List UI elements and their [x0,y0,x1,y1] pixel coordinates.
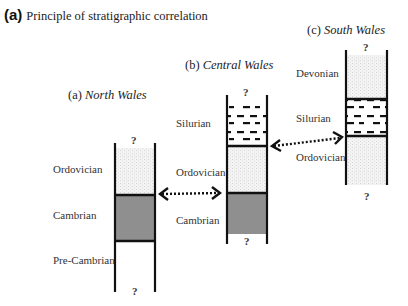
correlation-arrow-central-south [272,132,342,151]
column-north-wales [114,143,156,292]
label-ordovician-north: Ordovician [53,163,102,175]
unknown-bottom-central: ? [244,235,250,247]
unknown-bottom-south: ? [364,190,370,202]
figure-title: Principle of stratigraphic correlation [26,9,208,23]
label-cambrian-central: Cambrian [176,214,219,226]
unit-devonian-south [347,55,386,99]
label-precambrian-north: Pre-Cambrian [53,254,115,266]
unit-ordovician-south [347,136,386,185]
label-cambrian-north: Cambrian [53,209,96,221]
unit-cambrian-central [228,193,266,234]
unit-ordovician-central [228,146,266,193]
region-title-north-wales: (a) North Wales [68,88,147,103]
panel-letter: (a) [4,6,22,23]
figure-heading: (a) Principle of stratigraphic correlati… [4,6,208,24]
label-devonian-south: Devonian [296,67,339,79]
label-silurian-south: Silurian [296,112,331,124]
label-silurian-central: Silurian [176,117,211,129]
unit-silurian-central [228,104,266,146]
unit-silurian-south [347,99,386,136]
unit-ordovician-north [116,148,154,195]
correlation-arrow-north-central [160,187,220,200]
column-south-wales [345,50,388,185]
unknown-top-south: ? [363,41,369,53]
region-title-central-wales: (b) Central Wales [185,58,273,73]
unknown-bottom-north: ? [132,285,138,297]
label-ordovician-south: Ordovician [296,151,345,163]
unit-cambrian-north [116,195,154,241]
label-ordovician-central: Ordovician [176,166,225,178]
unknown-top-north: ? [131,134,137,146]
column-central-wales [226,95,268,244]
unknown-top-central: ? [243,86,249,98]
region-title-south-wales: (c) South Wales [307,23,385,38]
